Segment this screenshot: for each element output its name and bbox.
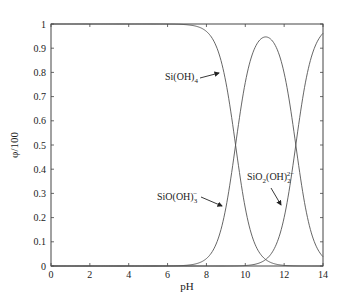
x-tick-label: 14 (318, 269, 328, 280)
y-tick-label: 0.7 (34, 91, 47, 102)
y-tick-label: 0 (41, 261, 46, 272)
y-tick-label: 0.1 (34, 236, 47, 247)
x-tick-label: 10 (240, 269, 250, 280)
x-tick-label: 12 (279, 269, 289, 280)
curve-si-oh-4 (51, 24, 323, 266)
x-tick-label: 6 (165, 269, 170, 280)
series-label: SiO(OH)3− (157, 190, 198, 205)
y-axis-title: φ/100 (8, 132, 20, 158)
y-tick-label: 1 (41, 19, 46, 30)
annotation-arrow-icon (200, 73, 219, 78)
x-tick-label: 0 (49, 269, 54, 280)
x-tick-label: 2 (87, 269, 92, 280)
speciation-chart: 02468101214 00.10.20.30.40.50.60.70.80.9… (0, 0, 345, 306)
y-tick-label: 0.3 (34, 188, 47, 199)
x-tick-label: 8 (204, 269, 209, 280)
x-axis-title: pH (180, 280, 194, 292)
series-label: Si(OH)4 (165, 71, 198, 85)
annotation-arrow-icon (201, 197, 222, 206)
plot-frame (51, 24, 323, 266)
curve-sio2-oh-2 (51, 33, 323, 266)
x-tick-labels: 02468101214 (49, 269, 329, 280)
y-tick-label: 0.4 (34, 164, 47, 175)
x-tick-label: 4 (126, 269, 131, 280)
y-tick-label: 0.6 (34, 115, 47, 126)
y-tick-label: 0.8 (34, 67, 47, 78)
plot-area-border (51, 24, 323, 266)
y-tick-label: 0.5 (34, 140, 47, 151)
series-curves (51, 24, 323, 266)
y-tick-labels: 00.10.20.30.40.50.60.70.80.91 (34, 19, 47, 272)
series-label: SiO2(OH)22− (247, 170, 294, 185)
y-tick-label: 0.9 (34, 43, 47, 54)
y-tick-label: 0.2 (34, 212, 47, 223)
chart-canvas: 02468101214 00.10.20.30.40.50.60.70.80.9… (0, 0, 345, 306)
annotation-arrow-icon (271, 188, 281, 205)
series-annotations: Si(OH)4SiO(OH)3−SiO2(OH)22− (157, 71, 294, 206)
axis-ticks (51, 24, 323, 266)
